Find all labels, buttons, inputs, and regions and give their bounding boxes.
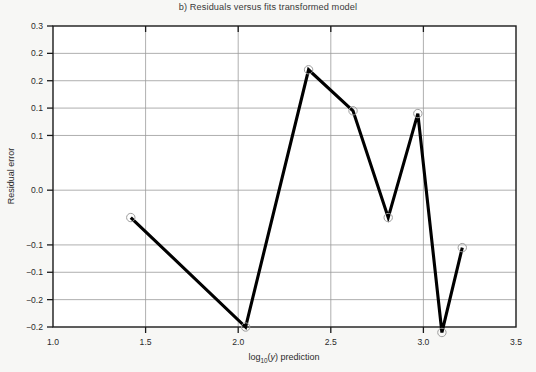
y-tick-label: 0.2	[31, 48, 43, 58]
y-tick-label: −0.2	[26, 322, 43, 332]
x-axis-title: log10(y) prediction	[248, 352, 319, 364]
y-axis-tick-labels: 0.30.20.20.10.10.0−0.1−0.1−0.2−0.2	[26, 21, 43, 332]
x-axis-tick-labels: 1.01.52.02.53.03.5	[47, 337, 522, 347]
residual-plot: 0.30.20.20.10.10.0−0.1−0.1−0.2−0.2 1.01.…	[0, 0, 536, 372]
y-tick-label: 0.1	[31, 103, 43, 113]
y-tick-label: −0.2	[26, 295, 43, 305]
y-tick-label: −0.1	[26, 240, 43, 250]
x-tick-label: 1.0	[47, 337, 59, 347]
y-tick-label: 0.2	[31, 76, 43, 86]
figure-canvas: b) Residuals versus fits transformed mod…	[0, 0, 536, 372]
y-tick-label: 0.0	[31, 185, 43, 195]
y-tick-label: 0.3	[31, 21, 43, 31]
y-tick-label: 0.1	[31, 131, 43, 141]
x-tick-label: 1.5	[140, 337, 152, 347]
x-tick-label: 2.5	[325, 337, 337, 347]
y-axis-title: Residual error	[6, 148, 16, 205]
x-tick-label: 3.5	[510, 337, 522, 347]
x-tick-label: 3.0	[417, 337, 429, 347]
x-tick-label: 2.0	[232, 337, 244, 347]
y-axis-tickmarks	[47, 26, 53, 327]
plot-area-background	[53, 26, 516, 327]
y-tick-label: −0.1	[26, 267, 43, 277]
